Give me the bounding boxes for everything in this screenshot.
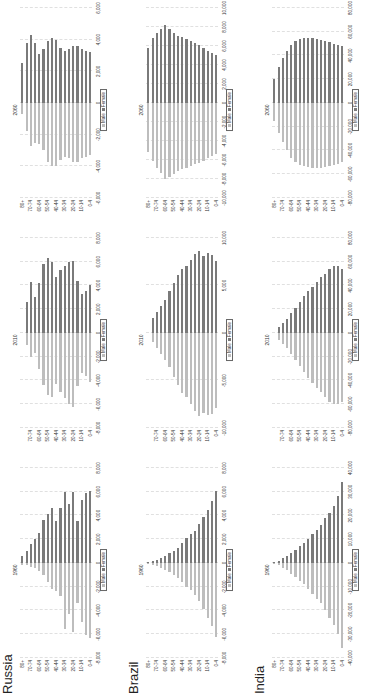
bar-female [85,291,87,333]
bar-female [282,324,284,334]
bar-male [215,103,217,154]
panel-year: 1960 [264,460,270,680]
bar-female [337,497,339,564]
x-tick-label: -8,000 [222,652,227,665]
bar-male [177,563,179,578]
x-tick-label: 6,000 [222,486,227,497]
bar-male [55,333,57,384]
bar-male [72,563,74,632]
bar-female [72,492,74,563]
legend-female: Female [101,92,106,107]
legend: Male Female [100,89,107,131]
bar-female [68,262,70,333]
bar-female [21,63,23,103]
male-swatch-icon [228,354,231,357]
bar-female [294,308,296,333]
pyramid-russia-2010: 2010-8,000-6,000-4,000-2,00002,0004,0006… [12,230,124,450]
bar-female [164,25,166,103]
bar-female [294,41,296,103]
pyramid-brazil-1960: 1960-8,000-6,000-4,000-2,00002,0004,0006… [138,460,250,680]
bar-female [156,560,158,563]
bar-female [173,551,175,563]
bar-male [215,563,217,637]
bar-male [68,103,70,158]
bar-male [202,333,204,413]
x-tick-label: -60,000 [348,397,353,412]
gridline [272,7,344,8]
bar-male [89,103,91,155]
bar-female [185,267,187,334]
age-label: 0-4 [88,200,93,220]
bar-female [307,291,309,333]
x-tick-label: 2,000 [222,78,227,89]
x-tick-label: -4,000 [96,160,101,173]
bar-female [211,53,213,103]
bar-female [81,49,83,103]
bar-female [341,269,343,333]
bar-male [89,333,91,382]
bar-male [38,333,40,369]
bar-female [156,33,158,103]
bar-male [211,333,213,414]
bar-male [72,103,74,162]
bar-female [51,262,53,333]
age-label: 60-64 [163,200,168,220]
gridline [20,261,92,262]
age-label: 60-64 [163,660,168,680]
bar-female [59,270,61,333]
bar-female [68,49,70,103]
bar-female [311,287,313,333]
gridline [272,197,344,198]
bar-male [81,333,83,373]
bar-female [64,492,66,563]
bar-female [51,508,53,563]
x-tick-label: -10,000 [222,190,227,205]
bar-male [51,333,53,397]
bar-male [147,103,149,152]
bar-male [311,563,313,594]
legend-male: Male [227,113,232,123]
bar-female [311,535,313,564]
bar-male [185,103,187,168]
bar-female [324,274,326,333]
bar-female [64,51,66,103]
x-tick-label: -6,000 [96,398,101,411]
age-label: 50-54 [297,430,302,450]
bar-male [152,563,154,565]
bar-male [181,333,183,393]
age-label: 70-74 [280,430,285,450]
bar-male [47,563,49,582]
bar-female [320,40,322,103]
bar-female [38,54,40,103]
plot-area: -40,000-30,000-20,000-10,000010,00020,00… [272,468,344,658]
x-tick-label: -6,000 [222,628,227,641]
age-label: 30-34 [188,660,193,680]
bar-female [320,525,322,563]
bar-male [273,563,275,564]
x-tick-label: 10,000 [348,532,353,546]
bar-male [316,333,318,388]
row-brazil: Brazil1960-8,000-6,000-4,000-2,00002,000… [128,0,253,700]
female-swatch-icon [102,568,105,571]
x-tick-label: 4,000 [222,59,227,70]
bar-female [51,38,53,103]
bar-female [30,35,32,103]
pyramid-russia-1960: 1960-8,000-6,000-4,000-2,00002,0004,0006… [12,460,124,680]
bar-male [282,563,284,568]
x-tick-label: 60,000 [348,25,353,39]
bar-male [207,103,209,158]
bar-female [307,38,309,103]
bar-female [47,41,49,103]
male-swatch-icon [228,584,231,587]
bar-female [55,521,57,563]
bar-male [294,563,296,577]
bar-male [156,563,158,566]
row-india: India1960-40,000-30,000-20,000-10,000010… [254,0,379,700]
x-tick-label: 4,000 [96,510,101,521]
bar-male [311,103,313,168]
x-tick-label: 30,000 [348,485,353,499]
bar-male [59,103,61,160]
bar-male [316,563,318,599]
legend: Male Female [226,549,233,591]
bar-female [34,297,36,333]
